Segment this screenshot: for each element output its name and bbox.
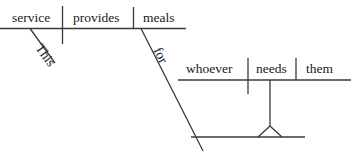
label-clause-subject: whoever bbox=[186, 62, 232, 76]
triangle-left-leg bbox=[258, 126, 270, 137]
label-clause-direct-object: them bbox=[306, 62, 333, 76]
preposition-slant bbox=[141, 29, 196, 138]
label-subject: service bbox=[12, 11, 50, 25]
label-verb: provides bbox=[73, 11, 120, 25]
triangle-right-leg bbox=[270, 126, 282, 137]
label-direct-object: meals bbox=[143, 11, 175, 25]
preposition-slant-tail bbox=[196, 137, 203, 151]
diagram-lines bbox=[0, 0, 354, 156]
label-clause-verb: needs bbox=[256, 62, 287, 76]
sentence-diagram: service provides meals This for whoever … bbox=[0, 0, 354, 156]
